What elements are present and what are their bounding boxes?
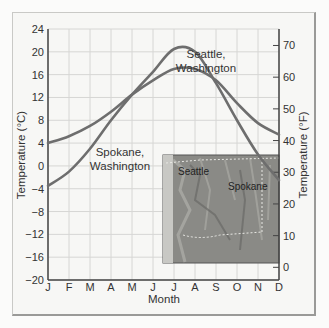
x-tick: O [233,281,242,293]
y-tick-left: 4 [38,137,44,149]
y-tick-left: −20 [25,274,44,286]
y-tick-right: 40 [283,135,295,147]
x-tick: A [107,281,115,293]
x-tick: J [150,281,156,293]
y-tick-left: 12 [32,91,44,103]
y-tick-left: 0 [38,160,44,172]
spokane-label-2: Washington [90,160,150,172]
y-tick-left: 8 [38,114,44,126]
y-tick-left: −4 [31,183,44,195]
x-tick: S [212,281,219,293]
map-label-seattle: Seattle [178,166,210,177]
y-tick-right: 10 [283,230,295,242]
seattle-label-1: Seattle, [187,48,226,60]
x-tick: F [66,281,73,293]
map-label-spokane: Spokane [228,181,268,192]
y-tick-right: 30 [283,166,295,178]
x-tick: D [275,281,283,293]
y-tick-right: 70 [283,39,295,51]
y-tick-left: 20 [32,46,44,58]
y-tick-left: −12 [25,228,44,240]
temperature-chart: Seattle Spokane 24201612840−4−8−12−16−20… [0,0,329,328]
x-axis-title: Month [148,293,180,305]
y-tick-left: −16 [25,251,44,263]
y-axis-title-right: Temperature (°F) [297,111,309,198]
x-tick: J [171,281,177,293]
x-tick: A [191,281,199,293]
x-tick: M [85,281,94,293]
y-axis-title-left: Temperature (°C) [15,111,27,199]
inset-map: Seattle Spokane [163,155,279,263]
x-tick: N [254,281,262,293]
y-tick-left: 24 [32,23,44,35]
x-tick: J [45,281,51,293]
y-tick-right: 20 [283,198,295,210]
y-tick-left: −8 [31,206,44,218]
y-tick-right: 50 [283,103,295,115]
seattle-label-2: Washington [176,62,236,74]
y-tick-right: 60 [283,71,295,83]
spokane-label-1: Spokane, [96,146,145,158]
y-tick-left: 16 [32,69,44,81]
y-tick-right: 0 [283,261,289,273]
x-tick: M [127,281,136,293]
